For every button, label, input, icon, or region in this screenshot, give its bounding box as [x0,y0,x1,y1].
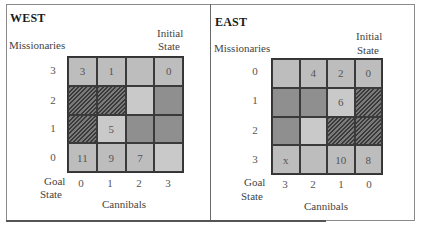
east-grid-cell: 10 [327,145,355,174]
west-grid-cell [154,115,183,144]
east-grid-cell: x [272,145,300,174]
west-grid-cell [126,57,155,86]
west-state-label: State [158,40,180,52]
east-grid-cell [300,88,328,117]
west-grid-cell [68,86,97,115]
east-grid-cell [300,145,328,174]
west-cannibals-label: Cannibals [102,198,146,210]
east-title: EAST [215,15,247,30]
east-goal-state-label: State [241,190,263,202]
west-col-label: 2 [125,177,153,189]
east-goal-label: Goal [244,176,265,188]
west-row-label: 2 [43,94,63,106]
west-missionaries-label: Missionaries [9,39,65,51]
east-col-label: 2 [299,178,327,190]
west-row-label: 0 [43,151,63,163]
west-col-label: 1 [96,177,124,189]
west-row-label: 1 [43,122,63,134]
west-grid-cell: 9 [97,143,126,172]
west-goal-label: Goal [44,175,65,187]
east-cannibals-label: Cannibals [304,200,348,212]
west-col-label: 0 [67,177,95,189]
west-grid-cell: 1 [97,57,126,86]
west-grid-cell: 0 [154,57,183,86]
west-grid-cell [97,86,126,115]
west-grid-cell: 5 [97,115,126,144]
east-row-label: 2 [245,124,265,136]
east-state-grid: 4206x108 [271,58,383,175]
east-row-label: 3 [245,153,265,165]
west-grid-cell [68,115,97,144]
west-state-grid: 31051197 [67,56,184,173]
panel-divider [210,4,211,221]
east-row-label: 1 [245,94,265,106]
west-grid-cell [154,143,183,172]
east-grid-cell: 4 [300,59,328,88]
east-grid-cell [327,117,355,146]
east-initial-label: Initial [356,30,382,42]
west-initial-label: Initial [157,27,183,39]
west-goal-state-label: State [40,188,62,200]
west-col-label: 3 [154,177,182,189]
east-col-label: 0 [355,178,383,190]
east-row-label: 0 [245,65,265,77]
east-grid-cell [300,117,328,146]
east-missionaries-label: Missionaries [214,42,270,54]
west-title: WEST [10,11,45,26]
west-grid-cell: 7 [126,143,155,172]
east-grid-cell [272,88,300,117]
west-grid-cell: 11 [68,143,97,172]
west-grid-cell [154,86,183,115]
east-grid-cell [272,59,300,88]
west-grid-cell: 3 [68,57,97,86]
east-state-label: State [357,44,379,56]
east-grid-cell [355,117,383,146]
east-grid-cell [355,88,383,117]
bottom-rule [6,220,326,222]
west-grid-cell [126,86,155,115]
east-grid-cell [272,117,300,146]
west-grid-cell [126,115,155,144]
east-grid-cell: 0 [355,59,383,88]
east-grid-cell: 6 [327,88,355,117]
west-row-label: 3 [43,64,63,76]
east-grid-cell: 8 [355,145,383,174]
east-grid-cell: 2 [327,59,355,88]
east-col-label: 3 [271,178,299,190]
east-col-label: 1 [327,178,355,190]
